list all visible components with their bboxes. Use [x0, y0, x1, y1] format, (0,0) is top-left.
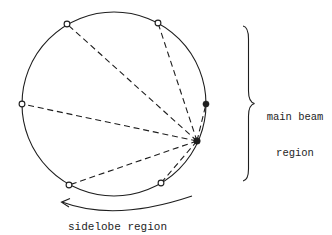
- open-node-bottom-left: [66, 182, 72, 188]
- dashed-ray-bottom-right: [161, 141, 197, 183]
- open-node-top-left: [64, 21, 70, 27]
- dashed-ray-left: [22, 104, 197, 141]
- main-beam-brace: [243, 26, 255, 181]
- sidelobe-region-label: sidelobe region: [60, 221, 175, 234]
- diagram-canvas: main beam region sidelobe region: [0, 0, 332, 235]
- dashed-ray-top-right: [158, 23, 197, 141]
- open-node-top-right: [155, 20, 161, 26]
- filled-node-main-beam: [203, 101, 209, 107]
- main-beam-label-line2: region: [258, 147, 332, 159]
- main-beam-label-line1: main beam: [258, 111, 332, 123]
- filled-node-vertex: [194, 138, 201, 145]
- dashed-rays: [22, 23, 206, 185]
- open-node-bottom-right: [158, 180, 164, 186]
- dashed-ray-bottom-left: [69, 141, 197, 185]
- open-node-left: [19, 101, 25, 107]
- sidelobe-arrow: [62, 196, 193, 211]
- sidelobe-arrow-curve: [62, 196, 192, 211]
- main-beam-region-label: main beam region: [258, 87, 332, 183]
- filled-nodes: [194, 101, 209, 144]
- open-nodes: [19, 20, 164, 188]
- main-circle: [22, 12, 206, 196]
- sidelobe-arrowhead-icon: [62, 199, 71, 208]
